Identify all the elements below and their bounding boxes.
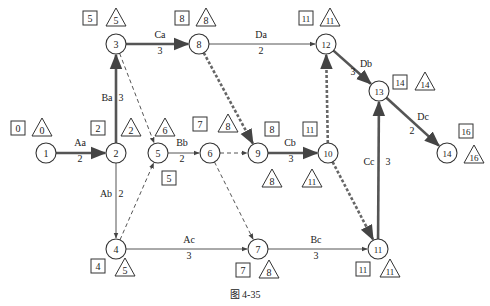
earliest-time-value: 2: [96, 123, 101, 134]
event-node-8: 888: [175, 8, 216, 54]
activity-duration: 3: [351, 66, 356, 77]
node-number: 8: [197, 39, 202, 50]
latest-time-value: 11: [308, 177, 317, 187]
node-number: 6: [208, 148, 213, 159]
activity-duration: 2: [259, 45, 264, 56]
event-node-11: 111111: [356, 239, 400, 277]
earliest-time-value: 0: [16, 123, 21, 134]
node-number: 5: [156, 148, 161, 159]
node-number: 13: [375, 87, 385, 97]
node-number: 1: [44, 148, 49, 159]
earliest-time-value: 11: [302, 14, 311, 24]
latest-time-value: 2: [129, 125, 134, 136]
activity-name: Cc: [363, 156, 375, 167]
latest-time-value: 5: [123, 265, 128, 276]
latest-time-value: 8: [204, 15, 209, 26]
event-node-13: 131414: [369, 72, 435, 101]
activity-duration: 3: [289, 153, 294, 164]
earliest-time-value: 7: [198, 119, 203, 130]
activity-duration: 2: [78, 153, 83, 164]
activity-name: Da: [255, 29, 267, 40]
event-node-12: 121111: [299, 8, 340, 54]
latest-time-value: 8: [267, 267, 272, 278]
latest-time-value: 0: [40, 125, 45, 136]
earliest-time-value: 11: [359, 265, 368, 275]
earliest-time-value: 16: [462, 127, 472, 137]
event-node-4: 445: [91, 239, 135, 276]
node-number: 3: [114, 39, 119, 50]
latest-time-value: 11: [326, 16, 335, 26]
earliest-time-value: 4: [96, 261, 101, 272]
activity-name: Ab: [100, 188, 112, 199]
node-number: 4: [114, 244, 119, 255]
earliest-time-value: 8: [180, 13, 185, 24]
activity-duration: 2: [180, 153, 185, 164]
latest-time-value: 8: [270, 176, 275, 187]
activity-arrow-dc: [386, 98, 438, 146]
node-number: 7: [256, 244, 261, 255]
node-number: 11: [374, 245, 383, 255]
node-number: 9: [256, 148, 261, 159]
activity-name: Ac: [183, 234, 195, 245]
activity-duration: 3: [314, 250, 319, 261]
activity-name: Cb: [284, 137, 296, 148]
latest-time-value: 6: [163, 125, 168, 136]
latest-time-value: 8: [226, 121, 231, 132]
event-node-1: 100: [11, 118, 56, 163]
network-diagram: 1002223554455566788889881011117781111111…: [0, 0, 490, 306]
activity-duration: 2: [410, 125, 415, 136]
latest-time-value: 16: [470, 153, 480, 163]
node-number: 10: [324, 149, 334, 159]
dummy-arrow-10-11: [333, 162, 373, 239]
activity-duration: 3: [386, 156, 391, 167]
activity-arrow-cc: [378, 102, 379, 239]
activity-name: Bb: [176, 137, 188, 148]
activity-name: Ca: [154, 29, 166, 40]
earliest-time-value: 14: [396, 78, 406, 88]
event-node-10: 101111: [302, 122, 338, 187]
event-node-5: 556: [148, 118, 176, 185]
earliest-time-value: 11: [306, 125, 315, 135]
figure-caption: 图 4-35: [230, 289, 261, 300]
event-node-7: 778: [236, 239, 279, 278]
activity-name: Ba: [101, 92, 113, 103]
activity-name: Dc: [417, 111, 429, 122]
activity-name: Aa: [74, 137, 86, 148]
node-number: 12: [322, 40, 331, 50]
latest-time-value: 5: [114, 15, 119, 26]
event-node-6: 678: [193, 114, 238, 163]
earliest-time-value: 5: [88, 13, 93, 24]
latest-time-value: 14: [421, 80, 431, 90]
activity-duration: 3: [187, 250, 192, 261]
earliest-time-value: 8: [270, 124, 275, 135]
node-number: 2: [114, 148, 119, 159]
event-node-14: 141616: [437, 124, 484, 163]
dummy-arrow-10-12: [326, 55, 328, 143]
diagram-svg: 1002223554455566788889881011117781111111…: [0, 0, 490, 306]
node-number: 14: [443, 149, 453, 159]
activity-duration: 3: [158, 45, 163, 56]
event-node-9: 988: [248, 122, 282, 187]
event-node-3: 355: [83, 8, 126, 54]
latest-time-value: 11: [386, 267, 395, 277]
dummy-arrow-4-5: [120, 163, 154, 240]
earliest-time-value: 5: [167, 173, 172, 184]
activity-duration: 3: [119, 92, 124, 103]
activity-duration: 2: [119, 188, 124, 199]
activity-name: Bc: [310, 234, 322, 245]
earliest-time-value: 7: [241, 265, 246, 276]
dummy-arrow-6-7: [214, 162, 253, 239]
activity-name: Db: [360, 58, 372, 69]
